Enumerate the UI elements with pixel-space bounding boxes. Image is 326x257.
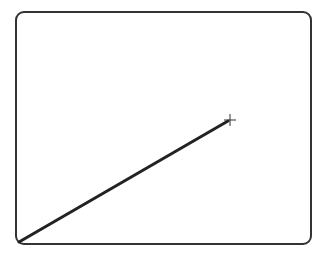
drawing-frame: [16, 12, 311, 244]
drawing-canvas[interactable]: [0, 0, 326, 257]
crosshair-cursor-icon: [224, 114, 236, 126]
drawn-line[interactable]: [19, 121, 228, 242]
